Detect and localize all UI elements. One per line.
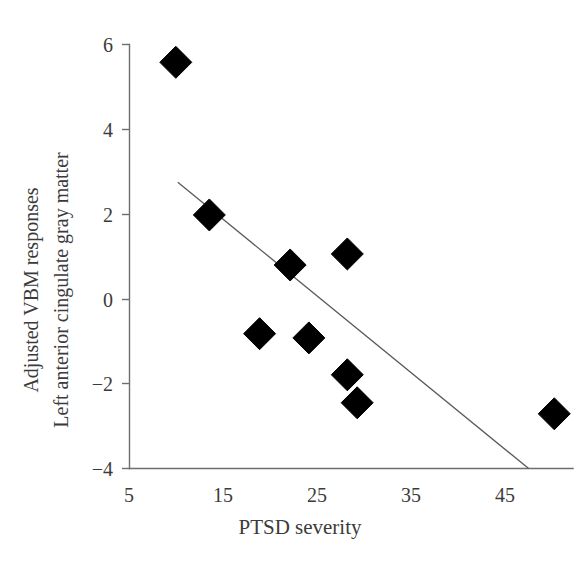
data-point-marker [160,46,192,78]
data-point-marker [274,249,306,281]
data-points-group [160,46,570,429]
x-tick-label-35: 35 [401,484,421,506]
trendline-group [178,182,529,468]
y-axis-tick-labels: 6 4 2 0 −2 −4 [92,34,113,480]
x-tick-label-25: 25 [307,484,327,506]
x-axis-tick-labels: 5 15 25 35 45 [124,484,515,506]
data-point-marker [331,359,363,391]
y-axis-ticks [122,45,130,469]
y-axis-label-line2: Left anterior cingulate gray matter [50,152,73,428]
x-tick-label-45: 45 [495,484,515,506]
y-tick-label-neg2: −2 [92,373,113,395]
x-tick-label-15: 15 [213,484,233,506]
y-tick-label-neg4: −4 [92,458,113,480]
scatter-plot-figure: Adjusted VBM responses Left anterior cin… [0,0,587,562]
y-tick-label-0: 0 [103,289,113,311]
y-tick-label-6: 6 [103,34,113,56]
y-tick-label-2: 2 [103,204,113,226]
plot-canvas: Adjusted VBM responses Left anterior cin… [0,0,587,562]
x-axis-label: PTSD severity [238,515,362,539]
data-point-marker [293,322,325,354]
data-point-marker [331,238,363,270]
y-tick-label-4: 4 [103,119,113,141]
data-point-marker [341,387,373,419]
data-point-marker [193,199,225,231]
y-axis-label-line1: Adjusted VBM responses [20,187,43,392]
x-tick-label-5: 5 [124,484,134,506]
data-point-marker [244,318,276,350]
regression-trendline [178,182,529,468]
data-point-marker [538,398,570,430]
